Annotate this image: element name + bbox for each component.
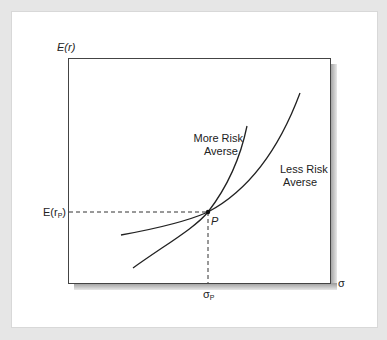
x-axis-label: σ xyxy=(338,277,345,289)
less-risk-averse-label-1: Less Risk xyxy=(280,163,328,175)
plot-shadow-right xyxy=(330,64,337,290)
y-tick-label: E(rP) xyxy=(43,206,66,219)
more-risk-averse-label-2: Averse xyxy=(204,145,238,157)
y-axis-label: E(r) xyxy=(57,41,76,53)
more-risk-averse-label-1: More Risk xyxy=(193,132,243,144)
point-label: P xyxy=(211,215,219,227)
point-p-marker xyxy=(206,210,210,214)
indifference-curve-diagram: E(r) σ P E(rP) σP More Risk Averse Less … xyxy=(0,0,387,340)
less-risk-averse-label-2: Averse xyxy=(283,176,317,188)
